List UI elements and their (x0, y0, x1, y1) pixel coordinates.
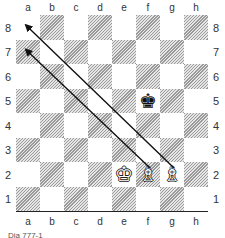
square-h1 (184, 187, 208, 212)
white-bishop-icon: ♗ (160, 162, 184, 187)
square-g3 (160, 138, 184, 163)
square-g7 (160, 40, 184, 65)
rank-label: 8 (210, 22, 222, 34)
square-e5 (112, 89, 136, 114)
chess-board: ♚♔♗♗ (16, 15, 208, 212)
rank-label: 7 (2, 46, 14, 58)
square-g5 (160, 89, 184, 114)
square-f1 (136, 187, 160, 212)
square-a7 (16, 40, 40, 65)
square-e4 (112, 113, 136, 138)
white-king-icon: ♔ (112, 162, 136, 187)
square-h5 (184, 89, 208, 114)
file-label: h (184, 2, 208, 14)
square-d2 (88, 162, 112, 187)
file-label: e (112, 2, 136, 14)
square-d4 (88, 113, 112, 138)
square-f8 (136, 15, 160, 40)
file-label: b (40, 216, 64, 228)
rank-label: 4 (2, 120, 14, 132)
square-b6 (40, 64, 64, 89)
rank-label: 8 (2, 22, 14, 34)
square-d6 (88, 64, 112, 89)
square-a8 (16, 15, 40, 40)
rank-label: 5 (2, 95, 14, 107)
square-h4 (184, 113, 208, 138)
square-a1 (16, 187, 40, 212)
rank-label: 6 (2, 71, 14, 83)
square-e3 (112, 138, 136, 163)
rank-label: 5 (210, 95, 222, 107)
square-f6 (136, 64, 160, 89)
file-label: a (16, 2, 40, 14)
square-a4 (16, 113, 40, 138)
square-h2 (184, 162, 208, 187)
square-g1 (160, 187, 184, 212)
square-h7 (184, 40, 208, 65)
black-king-icon: ♚ (136, 89, 160, 114)
file-label: b (40, 2, 64, 14)
square-e6 (112, 64, 136, 89)
rank-label: 1 (210, 193, 222, 205)
rank-label: 4 (210, 120, 222, 132)
square-e8 (112, 15, 136, 40)
square-a5 (16, 89, 40, 114)
square-g6 (160, 64, 184, 89)
file-label: e (112, 216, 136, 228)
square-g8 (160, 15, 184, 40)
square-b5 (40, 89, 64, 114)
square-b4 (40, 113, 64, 138)
white-bishop-icon: ♗ (136, 162, 160, 187)
square-d7 (88, 40, 112, 65)
file-label: c (64, 2, 88, 14)
rank-label: 1 (2, 193, 14, 205)
rank-label: 2 (210, 169, 222, 181)
square-b8 (40, 15, 64, 40)
square-c1 (64, 187, 88, 212)
square-e7 (112, 40, 136, 65)
square-b7 (40, 40, 64, 65)
square-h3 (184, 138, 208, 163)
square-b1 (40, 187, 64, 212)
square-f3 (136, 138, 160, 163)
file-label: d (88, 2, 112, 14)
square-c7 (64, 40, 88, 65)
file-label: f (136, 2, 160, 14)
square-c5 (64, 89, 88, 114)
square-a6 (16, 64, 40, 89)
square-g4 (160, 113, 184, 138)
square-b2 (40, 162, 64, 187)
square-a2 (16, 162, 40, 187)
square-f4 (136, 113, 160, 138)
square-c6 (64, 64, 88, 89)
rank-label: 3 (210, 144, 222, 156)
square-c4 (64, 113, 88, 138)
file-label: c (64, 216, 88, 228)
square-d1 (88, 187, 112, 212)
file-label: a (16, 216, 40, 228)
rank-label: 3 (2, 144, 14, 156)
square-b3 (40, 138, 64, 163)
square-f7 (136, 40, 160, 65)
file-label: h (184, 216, 208, 228)
square-c3 (64, 138, 88, 163)
file-label: f (136, 216, 160, 228)
file-label: g (160, 2, 184, 14)
square-h6 (184, 64, 208, 89)
square-h8 (184, 15, 208, 40)
rank-label: 2 (2, 169, 14, 181)
rank-label: 7 (210, 46, 222, 58)
square-c2 (64, 162, 88, 187)
square-e1 (112, 187, 136, 212)
file-label: g (160, 216, 184, 228)
square-c8 (64, 15, 88, 40)
square-d5 (88, 89, 112, 114)
square-d3 (88, 138, 112, 163)
file-label: d (88, 216, 112, 228)
square-a3 (16, 138, 40, 163)
diagram-caption: Dia 777-1 (8, 231, 43, 238)
rank-label: 6 (210, 71, 222, 83)
square-d8 (88, 15, 112, 40)
